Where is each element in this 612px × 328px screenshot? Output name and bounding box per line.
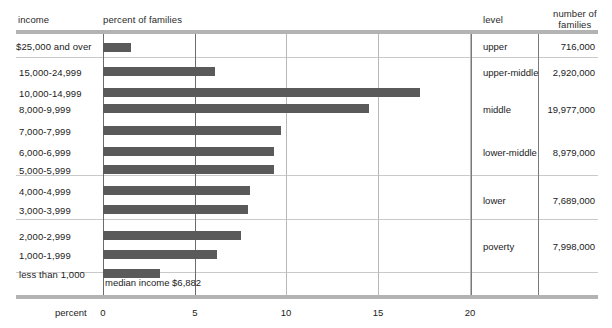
bar	[103, 126, 281, 135]
number-of-families-line2: families	[553, 19, 597, 30]
bar	[103, 104, 369, 113]
level-label: poverty	[483, 241, 514, 252]
column-divider-level	[471, 34, 472, 295]
bar	[103, 231, 241, 240]
row-label-income: $25,000 and over	[16, 41, 92, 52]
income-distribution-chart: income percent of families level number …	[0, 0, 612, 328]
families-count: 19,977,000	[547, 104, 595, 115]
families-count: 2,920,000	[553, 67, 595, 78]
bottom-rule	[16, 295, 598, 299]
axis-tick-20: 20	[455, 307, 485, 318]
row-label-income: 5,000-5,999	[19, 165, 71, 176]
column-header-percent-of-families: percent of families	[103, 14, 182, 25]
column-header-number-of-families: number of families	[553, 8, 597, 30]
row-label-income: 1,000-1,999	[19, 250, 71, 261]
row-label-income: 8,000-9,999	[19, 104, 71, 115]
bar	[103, 88, 420, 97]
axis-tick-15: 15	[363, 307, 393, 318]
bar	[103, 43, 131, 52]
row-label-income: 6,000-6,999	[19, 147, 71, 158]
families-count: 7,689,000	[553, 195, 595, 206]
bar	[103, 250, 217, 259]
gridline-15	[378, 34, 379, 295]
row-label-income: 10,000-14,999	[19, 88, 82, 99]
level-label: middle	[483, 104, 511, 115]
level-label: lower-middle	[483, 147, 537, 158]
level-label: upper	[483, 41, 507, 52]
bar	[103, 186, 250, 195]
families-count: 7,998,000	[553, 241, 595, 252]
row-label-income: 4,000-4,999	[19, 186, 71, 197]
row-label-income: 2,000-2,999	[19, 231, 71, 242]
row-label-income: less than 1,000	[19, 269, 85, 280]
bar	[103, 205, 248, 214]
axis-tick-5: 5	[180, 307, 210, 318]
families-count: 716,000	[561, 41, 595, 52]
level-label: upper-middle	[483, 67, 538, 78]
bar	[103, 165, 274, 174]
number-of-families-line1: number of	[553, 8, 597, 19]
families-count: 8,979,000	[553, 147, 595, 158]
median-income-annotation: median income $6,882	[105, 277, 201, 288]
column-header-level: level	[483, 14, 503, 25]
level-label: lower	[483, 195, 506, 206]
bar	[103, 67, 215, 76]
row-label-income: 3,000-3,999	[19, 205, 71, 216]
axis-tick-10: 10	[271, 307, 301, 318]
axis-tick-0: 0	[88, 307, 118, 318]
axis-label-percent: percent	[55, 307, 87, 318]
column-header-income: income	[18, 14, 49, 25]
bar	[103, 147, 274, 156]
row-label-income: 7,000-7,999	[19, 126, 71, 137]
row-label-income: 15,000-24,999	[19, 67, 82, 78]
gridline-10	[286, 34, 287, 295]
